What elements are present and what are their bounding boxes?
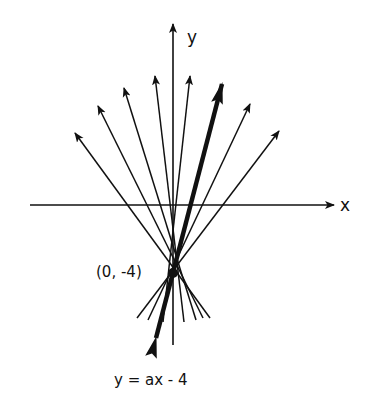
- line-slope-7: [137, 131, 279, 318]
- family-of-lines: [75, 76, 279, 322]
- y-intercept-point: [168, 268, 178, 278]
- line-slope-6: [148, 104, 250, 320]
- y-axis-label: y: [187, 27, 197, 47]
- x-axis-label: x: [340, 195, 350, 215]
- point-label: (0, -4): [96, 263, 142, 281]
- equation-label: y = ax - 4: [114, 371, 188, 389]
- diagram-canvas: y x (0, -4) y = ax - 4: [0, 0, 369, 411]
